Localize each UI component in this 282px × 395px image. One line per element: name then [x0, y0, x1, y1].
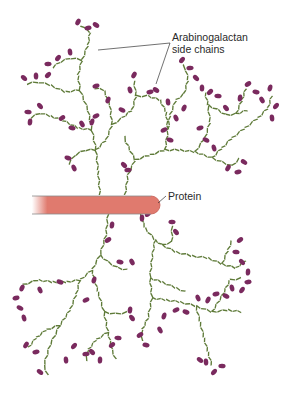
- arabinogalactan-protein-diagram: [0, 0, 282, 395]
- label-leader-lines: [98, 43, 170, 203]
- protein-backbone: [32, 196, 160, 214]
- arabinogalactan-label-line2: side chains: [172, 43, 248, 55]
- arabinogalactan-label: Arabinogalactan side chains: [172, 31, 248, 55]
- protein-label: Protein: [168, 190, 201, 202]
- arabinogalactan-label-line1: Arabinogalactan: [172, 31, 248, 43]
